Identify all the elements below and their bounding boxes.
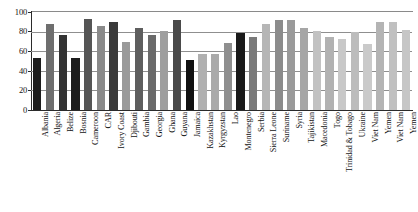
- x-tick-label: Kazakhstan: [206, 112, 215, 149]
- bar: [211, 54, 219, 110]
- bar: [236, 33, 244, 110]
- bar: [300, 28, 308, 110]
- x-tick-label: Cameroon: [91, 112, 100, 145]
- bar: [148, 35, 156, 110]
- bar: [275, 20, 283, 110]
- x-tick-label: Ukraine: [358, 112, 367, 137]
- x-tick-label: Viet Nam: [371, 112, 380, 142]
- y-tick-label-80: 80: [3, 27, 27, 36]
- x-tick-label: Serbia: [257, 112, 266, 132]
- y-tick-label-60: 60: [3, 47, 27, 56]
- bar: [325, 37, 333, 111]
- bar: [402, 30, 410, 110]
- y-tick-label-20: 20: [3, 86, 27, 95]
- x-tick-label: Ivory Coast: [117, 112, 126, 149]
- bar: [71, 58, 79, 110]
- plot-area: [31, 12, 412, 110]
- bar: [122, 42, 130, 110]
- x-tick-label: Suriname: [282, 112, 291, 142]
- x-tick-label: Jamaica: [193, 112, 202, 137]
- x-tick-label: Togo: [333, 112, 342, 128]
- y-tick-label-0: 0: [3, 106, 27, 115]
- bar: [33, 58, 41, 110]
- x-tick-label: Viet Nam: [396, 112, 405, 142]
- x-tick-label: Montenegro: [244, 112, 253, 151]
- x-tick-label: Gambia: [142, 112, 151, 137]
- bar: [135, 28, 143, 110]
- x-tick-label: Yemen: [409, 112, 418, 134]
- x-tick-label: Syria: [295, 112, 304, 129]
- x-tick-label: Georgia: [155, 112, 164, 137]
- bar: [173, 20, 181, 110]
- y-tick-label-40: 40: [3, 67, 27, 76]
- x-tick-label: Guyana: [180, 112, 189, 137]
- bar: [313, 31, 321, 110]
- bar: [351, 32, 359, 110]
- bar: [160, 31, 168, 110]
- bar: [59, 35, 67, 110]
- x-tick-label: Tajikistan: [307, 112, 316, 143]
- x-tick-label: Bosnia: [79, 112, 88, 134]
- bar: [109, 22, 117, 110]
- bar: [249, 37, 257, 110]
- x-tick-label: CAR: [104, 112, 113, 128]
- bar: [84, 19, 92, 110]
- bar: [389, 22, 397, 110]
- x-tick-label: Djibouti: [130, 112, 139, 138]
- x-axis-line: [31, 110, 413, 111]
- x-tick-label: Sierra Leone: [269, 112, 278, 152]
- bar: [186, 60, 194, 110]
- bar: [338, 39, 346, 110]
- x-tick-label: Albania: [41, 112, 50, 137]
- bar: [97, 26, 105, 110]
- bar: [287, 20, 295, 110]
- bar: [363, 44, 371, 110]
- bar: [46, 24, 54, 110]
- x-tick-label: Yemen: [384, 112, 393, 134]
- x-tick-label: Trinidad & Tobago: [345, 112, 354, 172]
- y-tick-label-100: 100: [3, 8, 27, 17]
- x-tick-label: Macedonia: [320, 112, 329, 147]
- x-axis-tick-labels: AlbaniaAlgeriaBelizeBosniaCameroonCARIvo…: [31, 112, 412, 210]
- bar: [376, 22, 384, 110]
- x-tick-label: Lao: [231, 112, 240, 124]
- x-tick-label: Ghana: [168, 112, 177, 133]
- x-tick-label: Belize: [66, 112, 75, 132]
- bar: [262, 24, 270, 110]
- x-tick-label: Algeria: [53, 112, 62, 136]
- bar: [224, 43, 232, 110]
- bar: [198, 54, 206, 110]
- x-tick-label: Kyrgyzstan: [218, 112, 227, 148]
